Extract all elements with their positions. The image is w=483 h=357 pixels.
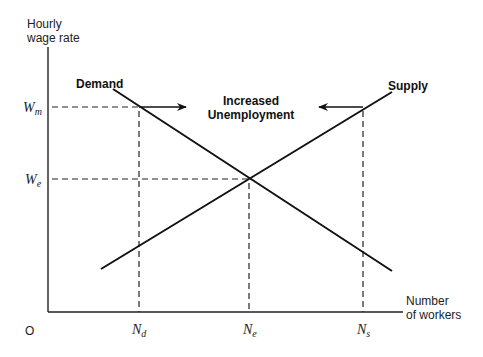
supply-label: Supply [388,79,428,93]
annotation-line1: Increased [223,94,279,108]
y-axis-label-line1: Hourly [27,17,62,31]
we-label: We [25,172,42,189]
ns-label: Ns [356,322,370,339]
wm-label: Wm [23,100,42,117]
y-axis-label-line2: wage rate [26,31,80,45]
x-axis-label-line1: Number [406,294,449,308]
ne-label: Ne [242,322,257,339]
demand-label: Demand [76,77,123,91]
origin-label: O [25,324,34,338]
nd-label: Nd [131,322,147,339]
labour-market-diagram: Hourly wage rate Number of workers O Wm … [0,0,483,357]
annotation-line2: Unemployment [208,108,295,122]
x-axis-label-line2: of workers [406,308,461,322]
